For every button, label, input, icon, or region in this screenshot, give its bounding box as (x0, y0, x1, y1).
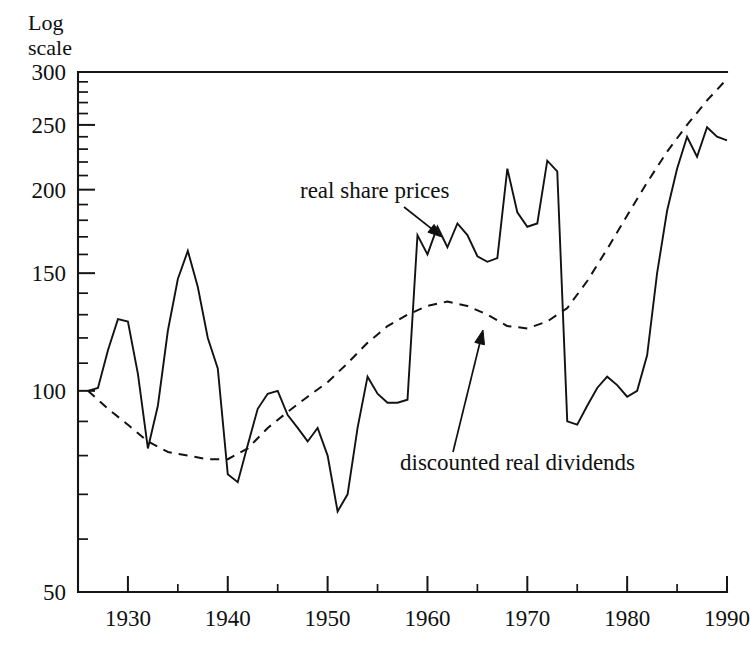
chart-figure: 50100150200250300 1930194019501960197019… (0, 0, 750, 653)
x-tick-label: 1970 (504, 606, 550, 631)
y-tick-label: 250 (32, 113, 67, 138)
x-axis-tick-labels: 1930194019501960197019801990 (105, 606, 750, 631)
chart-canvas: 50100150200250300 1930194019501960197019… (0, 0, 750, 653)
y-tick-label: 100 (32, 379, 67, 404)
y-tick-label: 50 (43, 580, 66, 605)
y-tick-label: 200 (32, 178, 67, 203)
y-axis-ticks (78, 72, 95, 592)
annotation-arrow-head-discounted-real-dividends (475, 330, 485, 345)
axes (78, 72, 727, 592)
annotation-label-real-share-prices: real share prices (300, 178, 449, 203)
annotation-label-discounted-real-dividends: discounted real dividends (400, 450, 635, 475)
series-discounted-real-dividends (88, 79, 727, 459)
x-tick-label: 1960 (404, 606, 450, 631)
y-tick-label: 300 (32, 60, 67, 85)
y-tick-label: 150 (32, 261, 67, 286)
x-tick-label: 1950 (305, 606, 351, 631)
y-axis-caption-line1: Log (28, 10, 63, 35)
chart-annotations: real share pricesdiscounted real dividen… (300, 178, 635, 475)
x-tick-label: 1940 (205, 606, 251, 631)
annotation-arrow-shaft-discounted-real-dividends (453, 341, 480, 452)
y-axis-caption-line2: scale (28, 35, 72, 60)
annotation-arrow-shaft-real-share-prices (404, 207, 433, 230)
x-tick-label: 1990 (704, 606, 750, 631)
x-axis-ticks (128, 576, 727, 592)
y-axis-tick-labels: 50100150200250300 (32, 60, 67, 605)
axis-lines (78, 72, 727, 592)
x-tick-label: 1930 (105, 606, 151, 631)
data-series (88, 79, 727, 512)
x-tick-label: 1980 (604, 606, 650, 631)
